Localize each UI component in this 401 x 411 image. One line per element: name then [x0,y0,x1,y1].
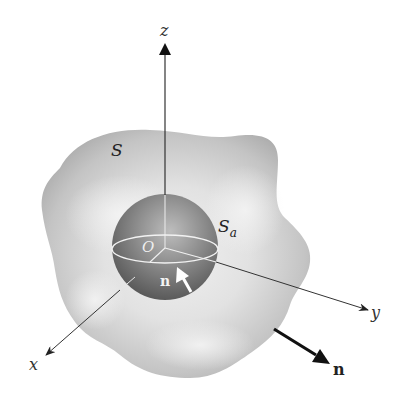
outer-normal-label: n [333,360,345,379]
origin-label: O [142,238,154,256]
y-axis-label: y [370,303,381,322]
outer-surface-label: S [111,140,123,160]
diagram-figure: z y x S Sa O n n [0,0,401,411]
outer-normal-arrowhead-icon [312,349,330,364]
x-axis-label: x [29,355,38,374]
outer-normal-arrow [274,329,330,364]
sphere-surface-label-main: S [218,216,230,236]
sphere-surface-label-subscript: a [230,226,237,240]
z-axis-label: z [159,21,169,40]
z-axis-arrowhead-icon [159,43,171,55]
inner-normal-label: n [160,273,170,289]
